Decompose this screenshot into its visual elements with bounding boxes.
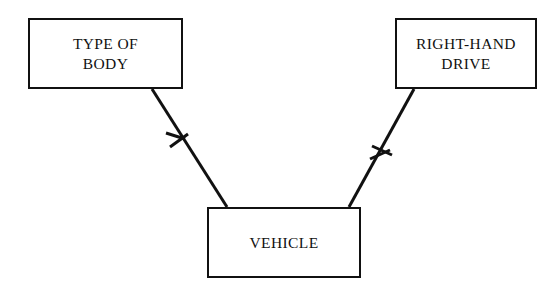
relationship-line-left: [152, 89, 227, 207]
er-diagram-canvas: TYPE OF BODY RIGHT-HAND DRIVE VEHICLE: [0, 0, 556, 294]
entity-label-vehicle: VEHICLE: [249, 233, 318, 253]
entity-type-of-body[interactable]: TYPE OF BODY: [28, 18, 183, 89]
relationship-right-hand-drive-to-vehicle[interactable]: [349, 89, 414, 207]
relationship-type-of-body-to-vehicle[interactable]: [152, 89, 227, 207]
entity-label-right-hand-drive: RIGHT-HAND DRIVE: [416, 34, 516, 74]
entity-right-hand-drive[interactable]: RIGHT-HAND DRIVE: [395, 18, 537, 89]
entity-label-type-of-body: TYPE OF BODY: [73, 34, 138, 74]
relationship-line-right: [349, 89, 414, 207]
entity-vehicle[interactable]: VEHICLE: [207, 207, 361, 278]
